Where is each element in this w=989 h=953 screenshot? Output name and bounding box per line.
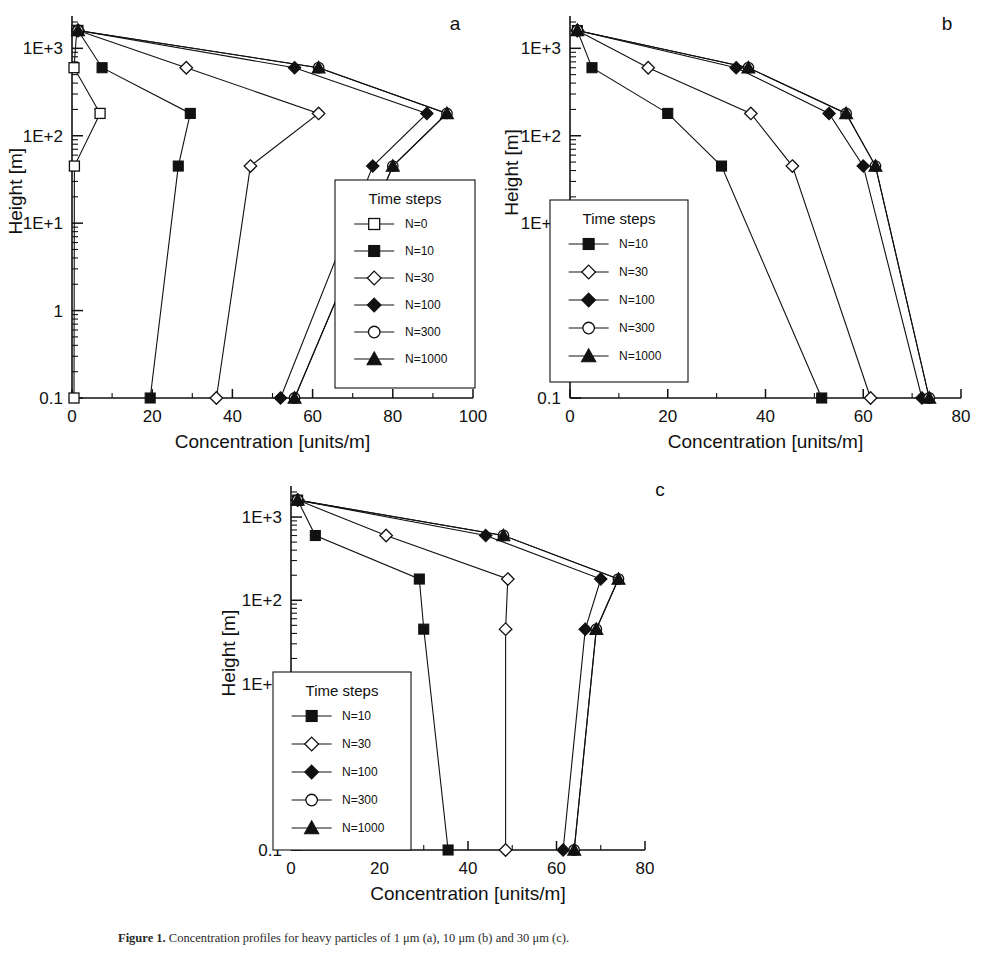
marker-open-circle xyxy=(306,794,318,806)
marker-open-diamond xyxy=(180,61,193,74)
marker-open-diamond xyxy=(499,623,512,636)
x-tick-label: 0 xyxy=(565,407,574,426)
legend-label[interactable]: N=30 xyxy=(342,737,371,751)
figure-caption: Figure 1. Concentration profiles for hea… xyxy=(118,930,978,952)
panel-label-a: a xyxy=(450,13,461,34)
legend-label[interactable]: N=30 xyxy=(619,265,648,279)
marker-open-square xyxy=(95,108,105,118)
y-axis-title: Height [m] xyxy=(5,148,26,235)
marker-open-diamond xyxy=(380,529,393,542)
marker-open-square xyxy=(69,63,79,73)
marker-filled-square xyxy=(717,161,727,171)
y-tick-label: 0.1 xyxy=(39,389,63,408)
marker-filled-square xyxy=(173,161,183,171)
legend-title: Time steps xyxy=(583,210,656,227)
chart-svg-c: 0204060801E+31E+21E+110.1Concentration [… xyxy=(205,470,705,920)
chart-panel-a: 0204060801001E+31E+21E+110.1Concentratio… xyxy=(0,0,495,470)
marker-filled-square xyxy=(310,531,320,541)
marker-open-square xyxy=(69,393,79,403)
x-tick-label: 40 xyxy=(223,407,242,426)
chart-panel-b: 0204060801E+31E+21E+110.1Concentration [… xyxy=(492,0,989,470)
legend-label[interactable]: N=10 xyxy=(342,709,371,723)
chart-svg-b: 0204060801E+31E+21E+110.1Concentration [… xyxy=(492,0,989,470)
legend-label[interactable]: N=100 xyxy=(342,765,378,779)
marker-open-square xyxy=(69,161,79,171)
x-tick-label: 0 xyxy=(286,859,295,878)
legend-label[interactable]: N=1000 xyxy=(405,352,448,366)
series-N-10 xyxy=(73,25,195,403)
marker-filled-square xyxy=(663,108,673,118)
marker-filled-diamond xyxy=(730,61,743,74)
series-N-30 xyxy=(72,24,325,404)
y-axis-title: Height [m] xyxy=(218,610,239,697)
x-tick-label: 80 xyxy=(383,407,402,426)
marker-filled-square xyxy=(583,239,594,250)
panel-label-c: c xyxy=(655,479,665,500)
legend-label[interactable]: N=10 xyxy=(619,237,648,251)
legend-title: Time steps xyxy=(369,190,442,207)
marker-open-diamond xyxy=(786,160,799,173)
marker-filled-square xyxy=(419,624,429,634)
legend-c: Time stepsN=10N=30N=100N=300N=1000 xyxy=(273,672,411,850)
x-tick-label: 60 xyxy=(303,407,322,426)
legend-label[interactable]: N=300 xyxy=(619,321,655,335)
marker-filled-square xyxy=(185,108,195,118)
marker-filled-square xyxy=(414,574,424,584)
legend-label[interactable]: N=100 xyxy=(619,293,655,307)
x-tick-label: 20 xyxy=(143,407,162,426)
y-tick-label: 1E+2 xyxy=(23,127,63,146)
x-axis-title: Concentration [units/m] xyxy=(668,431,863,452)
legend-label[interactable]: N=0 xyxy=(405,217,428,231)
marker-open-diamond xyxy=(210,392,223,405)
chart-svg-a: 0204060801001E+31E+21E+110.1Concentratio… xyxy=(0,0,495,470)
legend-label[interactable]: N=300 xyxy=(342,793,378,807)
marker-filled-diamond xyxy=(274,392,287,405)
marker-open-circle xyxy=(368,326,380,338)
marker-filled-square xyxy=(145,393,155,403)
marker-filled-square xyxy=(306,711,317,722)
panel-label-b: b xyxy=(942,13,953,34)
x-tick-label: 60 xyxy=(854,407,873,426)
x-axis-title: Concentration [units/m] xyxy=(175,431,370,452)
marker-filled-square xyxy=(587,63,597,73)
figure-caption-text: Concentration profiles for heavy particl… xyxy=(169,931,569,945)
marker-filled-square xyxy=(443,845,453,855)
marker-open-diamond xyxy=(499,844,512,857)
x-tick-label: 80 xyxy=(636,859,655,878)
y-axis-title: Height [m] xyxy=(501,129,522,216)
legend-label[interactable]: N=300 xyxy=(405,325,441,339)
legend-label[interactable]: N=30 xyxy=(405,271,434,285)
y-tick-label: 1E+3 xyxy=(242,508,282,527)
legend-label[interactable]: N=1000 xyxy=(619,349,662,363)
x-axis-title: Concentration [units/m] xyxy=(370,883,565,904)
x-tick-label: 60 xyxy=(547,859,566,878)
marker-filled-diamond xyxy=(579,623,592,636)
marker-filled-diamond xyxy=(557,844,570,857)
y-tick-label: 0.1 xyxy=(537,389,561,408)
marker-open-diamond xyxy=(642,61,655,74)
x-tick-label: 40 xyxy=(459,859,478,878)
figure-caption-label: Figure 1. xyxy=(118,931,166,945)
x-tick-label: 80 xyxy=(952,407,971,426)
marker-open-diamond xyxy=(502,573,515,586)
marker-open-square xyxy=(369,219,380,230)
x-tick-label: 20 xyxy=(370,859,389,878)
y-tick-label: 1E+1 xyxy=(23,214,63,233)
y-tick-label: 1E+2 xyxy=(521,127,561,146)
marker-filled-square xyxy=(97,63,107,73)
legend-b: Time stepsN=10N=30N=100N=300N=1000 xyxy=(550,200,688,382)
legend-label[interactable]: N=100 xyxy=(405,298,441,312)
y-tick-label: 1E+3 xyxy=(23,39,63,58)
legend-title: Time steps xyxy=(306,682,379,699)
marker-open-circle xyxy=(583,322,595,334)
legend-label[interactable]: N=10 xyxy=(405,244,434,258)
x-tick-label: 40 xyxy=(756,407,775,426)
marker-open-diamond xyxy=(312,107,325,120)
legend-a: Time stepsN=0N=10N=30N=100N=300N=1000 xyxy=(335,180,475,388)
marker-open-diamond xyxy=(864,392,877,405)
x-tick-label: 20 xyxy=(658,407,677,426)
legend-label[interactable]: N=1000 xyxy=(342,821,385,835)
marker-filled-square xyxy=(817,393,827,403)
marker-open-diamond xyxy=(244,160,257,173)
y-tick-label: 1E+3 xyxy=(521,39,561,58)
